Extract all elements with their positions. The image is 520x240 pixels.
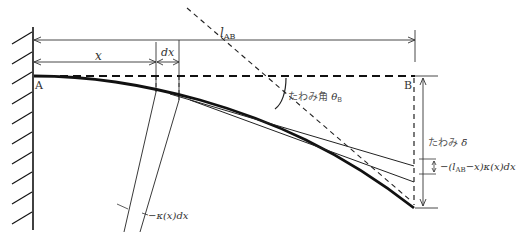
beam-deflection-diagram: lAB x dx −κ(x)dx たわみ角 θB A B	[0, 0, 520, 240]
curvature-arrow-left	[117, 204, 128, 209]
x-label: x	[95, 49, 102, 63]
curvature-label: −κ(x)dx	[148, 210, 189, 221]
dx-label: dx	[161, 46, 175, 59]
rotation-line-1	[170, 94, 414, 166]
rotation-line-2	[190, 100, 414, 182]
increment-dimension	[419, 159, 436, 174]
point-b-label: B	[404, 79, 412, 92]
point-a-label: A	[34, 79, 44, 92]
angle-arc	[275, 78, 286, 109]
deflection-label: たわみ δ̄	[428, 137, 467, 148]
increment-label: −(lAB−x)κ(x)dx	[440, 161, 516, 174]
deflected-beam	[34, 76, 414, 208]
fixed-wall	[12, 27, 33, 230]
